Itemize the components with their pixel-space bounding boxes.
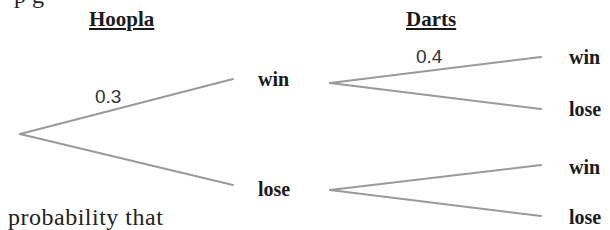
outcome-hoopla-win: win: [258, 69, 289, 89]
tree-branches: [0, 0, 610, 230]
header-hoopla: Hoopla: [89, 9, 154, 30]
caption-text: probability that: [8, 205, 163, 229]
probability-darts-win: 0.4: [416, 47, 442, 66]
branch-hoopla-win: [20, 79, 233, 134]
probability-tree-diagram: p g Hoopla Darts 0.3 0.4 win lose win lo…: [0, 0, 610, 230]
outcome-darts-lose-1: lose: [569, 99, 601, 119]
outcome-darts-lose-2: lose: [569, 207, 601, 227]
header-darts: Darts: [406, 9, 456, 30]
branch-lose-darts-win: [330, 165, 541, 190]
branch-win-darts-lose: [330, 83, 541, 109]
cropped-top-text: p g: [14, 0, 44, 7]
outcome-hoopla-lose: lose: [258, 179, 290, 199]
branch-lose-darts-lose: [330, 190, 541, 216]
outcome-darts-win-2: win: [569, 157, 600, 177]
outcome-darts-win-1: win: [569, 47, 600, 67]
branch-hoopla-lose: [20, 134, 233, 185]
probability-hoopla-win: 0.3: [95, 87, 121, 106]
